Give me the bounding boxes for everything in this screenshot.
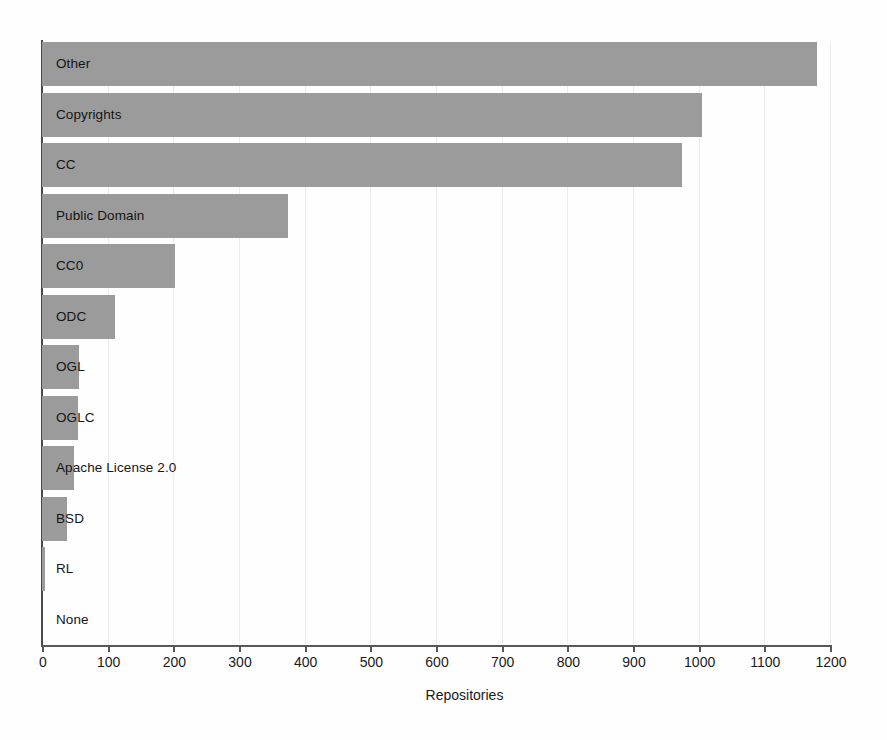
x-tick-label: 500 xyxy=(360,654,383,670)
bar-row: RL xyxy=(42,547,830,591)
x-tick-label: 800 xyxy=(557,654,580,670)
bar-category-label: OGLC xyxy=(56,396,95,440)
bar-row: OGL xyxy=(42,345,830,389)
x-tick-mark xyxy=(502,645,504,652)
x-tick-mark xyxy=(830,645,832,652)
x-tick-mark xyxy=(699,645,701,652)
x-tick-label: 900 xyxy=(622,654,645,670)
bar-row: BSD xyxy=(42,497,830,541)
x-tick-mark xyxy=(42,645,44,652)
x-tick-label: 0 xyxy=(39,654,47,670)
bar-category-label: Public Domain xyxy=(56,194,144,238)
x-axis-title: Repositories xyxy=(0,687,887,703)
x-tick-label: 100 xyxy=(97,654,120,670)
bar-row: OGLC xyxy=(42,396,830,440)
bar xyxy=(42,143,682,187)
x-tick-mark xyxy=(764,645,766,652)
x-tick-label: 700 xyxy=(491,654,514,670)
x-tick-mark xyxy=(305,645,307,652)
x-tick-mark xyxy=(370,645,372,652)
x-tick-label: 400 xyxy=(294,654,317,670)
x-tick-mark xyxy=(108,645,110,652)
bar xyxy=(42,42,817,86)
bar-row: None xyxy=(42,598,830,642)
bar-row: Public Domain xyxy=(42,194,830,238)
bar-category-label: Apache License 2.0 xyxy=(56,446,176,490)
bar-category-label: Other xyxy=(56,42,90,86)
bar xyxy=(42,547,45,591)
x-tick-mark xyxy=(633,645,635,652)
x-tick-label: 1200 xyxy=(815,654,846,670)
bar-row: Copyrights xyxy=(42,93,830,137)
bar-category-label: CC0 xyxy=(56,244,83,288)
bar-category-label: Copyrights xyxy=(56,93,122,137)
bar-category-label: OGL xyxy=(56,345,85,389)
x-tick-mark xyxy=(239,645,241,652)
bar-row: Apache License 2.0 xyxy=(42,446,830,490)
bar-row: ODC xyxy=(42,295,830,339)
x-tick-label: 200 xyxy=(163,654,186,670)
horizontal-bar-chart: Repositories OtherCopyrightsCCPublic Dom… xyxy=(0,0,887,740)
bar-category-label: ODC xyxy=(56,295,86,339)
bar-category-label: CC xyxy=(56,143,76,187)
bar-row: CC0 xyxy=(42,244,830,288)
x-axis-title-text: Repositories xyxy=(384,687,504,703)
bar-category-label: RL xyxy=(56,547,73,591)
bar-category-label: BSD xyxy=(56,497,84,541)
x-tick-label: 600 xyxy=(425,654,448,670)
gridline-1200 xyxy=(830,42,831,644)
x-tick-label: 1000 xyxy=(684,654,715,670)
x-tick-label: 300 xyxy=(228,654,251,670)
bar-row: Other xyxy=(42,42,830,86)
x-tick-mark xyxy=(436,645,438,652)
bar-row: CC xyxy=(42,143,830,187)
x-tick-mark xyxy=(173,645,175,652)
bar-category-label: None xyxy=(56,598,89,642)
bar xyxy=(42,93,702,137)
x-tick-mark xyxy=(567,645,569,652)
x-tick-label: 1100 xyxy=(750,654,780,670)
